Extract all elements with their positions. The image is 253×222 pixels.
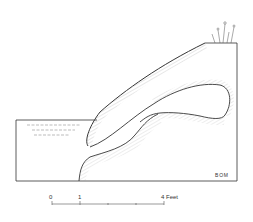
- scale-label-4-feet: 4 Feet: [161, 194, 178, 200]
- bank-outline: [16, 43, 237, 181]
- grass-tuft-icon: [212, 22, 235, 43]
- scale-bar: 0 1 4 Feet: [49, 194, 178, 205]
- burrow-tunnel-upper: [90, 79, 234, 147]
- artist-initials: BOM: [215, 172, 229, 178]
- scale-label-1: 1: [78, 194, 82, 200]
- scale-label-0: 0: [49, 194, 53, 200]
- burrow-tunnel-lower: [79, 114, 162, 181]
- burrow-diagram: BOM 0 1 4 Feet: [0, 0, 253, 222]
- water-lines: [27, 125, 80, 135]
